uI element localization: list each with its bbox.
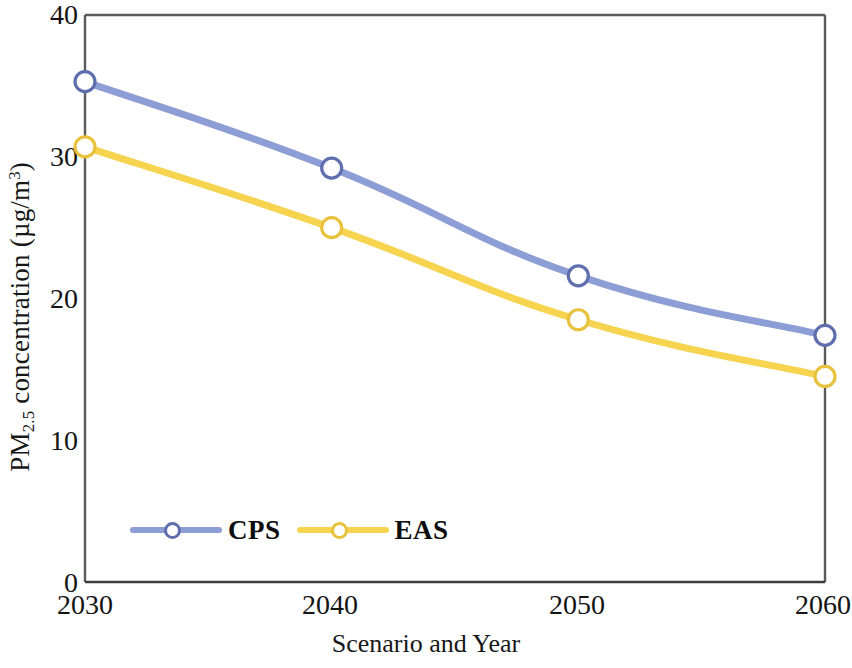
axis-frame — [85, 15, 825, 582]
x-tick-label: 2030 — [15, 591, 155, 619]
data-point-marker — [75, 137, 95, 157]
chart-legend: CPS EAS — [130, 512, 449, 548]
legend-entry-eas: EAS — [297, 515, 449, 546]
data-point-marker — [322, 218, 342, 238]
legend-label-eas: EAS — [395, 515, 449, 546]
series-line-cps — [85, 82, 825, 336]
data-point-marker — [75, 72, 95, 92]
x-tick-label: 2040 — [260, 591, 400, 619]
data-point-marker — [815, 325, 835, 345]
legend-swatch-cps — [130, 518, 222, 542]
x-tick-label: 2060 — [753, 591, 852, 619]
legend-label-cps: CPS — [228, 515, 281, 546]
plot-area — [0, 0, 852, 668]
x-axis-title: Scenario and Year — [0, 629, 852, 659]
data-point-marker — [568, 310, 588, 330]
data-point-marker — [815, 366, 835, 386]
legend-swatch-eas — [297, 518, 389, 542]
data-point-marker — [322, 158, 342, 178]
legend-entry-cps: CPS — [130, 515, 281, 546]
series-layer — [75, 72, 835, 387]
series-line-eas — [85, 147, 825, 377]
x-tick-label: 2050 — [507, 591, 647, 619]
legend-circle-marker-icon — [331, 522, 348, 539]
chart-figure: PM2.5 concentration (µg/m3) 40 30 20 10 … — [0, 0, 852, 668]
legend-circle-marker-icon — [164, 522, 181, 539]
data-point-marker — [568, 266, 588, 286]
